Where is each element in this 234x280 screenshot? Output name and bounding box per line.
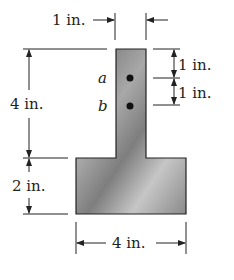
top-width-label: 1 in.: [52, 11, 86, 29]
point-a-label: a: [98, 69, 107, 87]
t-section-shape: [76, 49, 186, 214]
b-offset-label: 1 in.: [178, 84, 212, 102]
top-width-dimension: [93, 13, 168, 40]
stem-height-label: 4 in.: [10, 95, 44, 113]
flange-width-label: 4 in.: [112, 234, 146, 252]
point-b-dot: [127, 103, 134, 110]
point-a-dot: [127, 75, 134, 82]
point-b-label: b: [98, 97, 108, 115]
t-section-diagram: 1 in. 4 in. 2 in. 1 in. 1 in. 4 in. a b: [0, 0, 234, 280]
flange-height-label: 2 in.: [12, 177, 46, 195]
a-offset-label: 1 in.: [178, 56, 212, 74]
